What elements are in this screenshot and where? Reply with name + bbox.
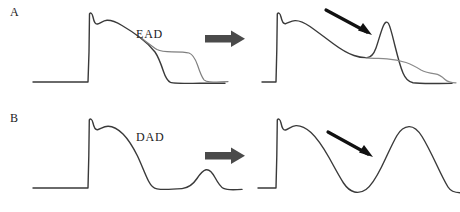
- panel-b-after-trace: [258, 119, 460, 193]
- dad-pointer-arrow: [328, 132, 373, 157]
- transition-block-arrow-b: [205, 148, 245, 164]
- panel-a-traces: [0, 0, 460, 106]
- panel-a: A EAD: [0, 0, 460, 106]
- figure-container: A EAD B: [0, 0, 460, 212]
- panel-a-after-group: [262, 13, 456, 83]
- panel-b-after-group: [258, 119, 460, 193]
- dad-label: DAD: [136, 131, 164, 143]
- panel-a-after-ead-trace: [366, 58, 456, 83]
- panel-a-before-normal-trace: [33, 13, 225, 83]
- panel-a-before-ead-trace: [142, 39, 228, 83]
- panel-b: B DAD: [0, 106, 460, 212]
- panel-b-traces: [0, 106, 460, 212]
- panel-a-after-main-trace: [262, 13, 452, 83]
- transition-block-arrow-a: [205, 31, 245, 47]
- panel-a-before-group: [33, 13, 228, 83]
- ead-pointer-arrow: [326, 10, 372, 35]
